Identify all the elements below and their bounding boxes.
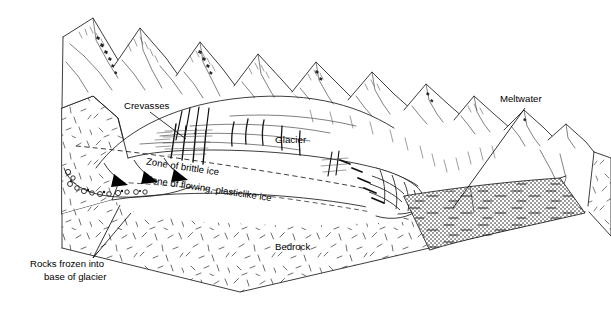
label-meltwater: Meltwater	[500, 93, 542, 104]
label-rocks-line2: base of glacier	[44, 271, 107, 282]
label-rocks-line1: Rocks frozen into	[30, 258, 104, 269]
diagram-canvas: Crevasses Glacier Zone of brittle ice Zo…	[0, 0, 611, 332]
label-crevasses: Crevasses	[124, 100, 170, 111]
label-glacier: Glacier	[275, 134, 307, 145]
glacier-block-diagram: Crevasses Glacier Zone of brittle ice Zo…	[0, 0, 611, 332]
label-bedrock: Bedrock	[275, 241, 310, 252]
